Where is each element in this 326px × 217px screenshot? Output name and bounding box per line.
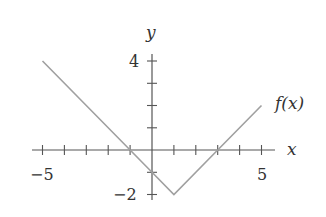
tick-label-y-4: 4 [129, 52, 139, 71]
x-axis-label: x [287, 139, 297, 159]
function-label: f(x) [273, 93, 304, 113]
function-graph: y x f(x) −5 5 4 −2 [0, 0, 326, 217]
axes [32, 54, 275, 200]
tick-label-y-neg2: −2 [113, 185, 137, 204]
tick-label-x-5: 5 [257, 165, 267, 184]
y-axis-label: y [145, 22, 156, 42]
tick-label-x-neg5: −5 [30, 165, 54, 184]
